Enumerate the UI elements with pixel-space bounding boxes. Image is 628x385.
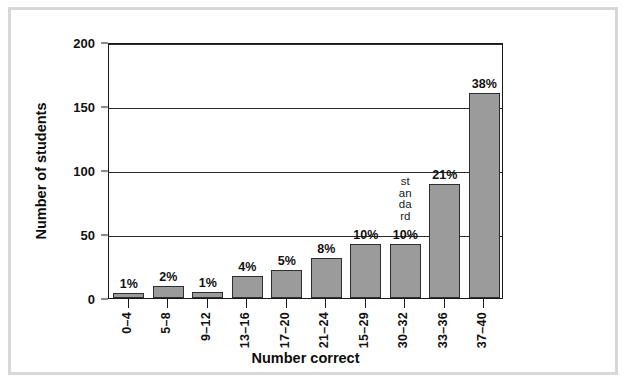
bar[interactable] (469, 93, 500, 298)
bar-slot: 1% (188, 44, 228, 298)
x-axis-tick-label: 0–4 (120, 312, 136, 334)
x-axis-tick-label: 5–8 (159, 312, 175, 334)
x-axis-tick-label: 21–24 (317, 312, 333, 348)
bar-value-label: 10% (386, 228, 426, 242)
y-axis-tick-label: 100 (73, 164, 95, 179)
bar-slot: 10% (346, 44, 386, 298)
y-axis-title: Number of students (31, 43, 51, 299)
x-axis-tick-mark (207, 299, 208, 308)
x-axis-tick-mark (483, 299, 484, 308)
y-axis-tick-mark (101, 299, 108, 300)
x-axis-tick-mark (404, 299, 405, 308)
bar-slot: 4% (228, 44, 268, 298)
bar[interactable] (390, 244, 421, 298)
bar[interactable] (271, 270, 302, 298)
bar-chart: Number of students 050100150200 1%2%1%4%… (11, 10, 621, 378)
y-axis-tick-label: 0 (88, 292, 95, 307)
bar-slot: 21% (425, 44, 465, 298)
bar[interactable] (113, 293, 144, 298)
y-axis-tick-mark (101, 43, 108, 44)
y-axis-tick-mark (101, 235, 108, 236)
x-axis-title: Number correct (108, 350, 503, 366)
y-axis-tick-label: 200 (73, 36, 95, 51)
y-axis-tick-mark (101, 171, 108, 172)
x-axis-tick-label: 15–29 (357, 312, 373, 348)
bar-value-label: 2% (149, 270, 189, 284)
figure-frame: Number of students 050100150200 1%2%1%4%… (8, 7, 618, 375)
bar-slot: 8% (307, 44, 347, 298)
bar-value-label: 5% (267, 254, 307, 268)
standard-annotation: standard (398, 176, 412, 222)
bar[interactable] (153, 286, 184, 298)
plot-area: 1%2%1%4%5%8%10%10%21%38% standard (108, 43, 503, 299)
bar[interactable] (311, 258, 342, 298)
x-axis-tick-mark (167, 299, 168, 308)
bar[interactable] (192, 292, 223, 298)
bar-value-label: 10% (346, 228, 386, 242)
x-axis-tick-label: 37–40 (475, 312, 491, 348)
x-axis-tick-label: 30–32 (396, 312, 412, 348)
bar[interactable] (429, 184, 460, 298)
bar-slot: 2% (149, 44, 189, 298)
bar-value-label: 38% (465, 77, 505, 91)
x-axis-tick-mark (444, 299, 445, 308)
bar-slot: 1% (109, 44, 149, 298)
bar-value-label: 1% (109, 277, 149, 291)
bar-value-label: 8% (307, 242, 347, 256)
bar-slot: 10% (386, 44, 426, 298)
x-axis-tick-mark (325, 299, 326, 308)
bar-value-label: 1% (188, 276, 228, 290)
x-axis-tick-label: 13–16 (238, 312, 254, 348)
bar-slot: 5% (267, 44, 307, 298)
x-axis-tick-label: 9–12 (199, 312, 215, 341)
bar-slot: 38% (465, 44, 505, 298)
y-axis-tick-label: 150 (73, 100, 95, 115)
y-axis-tick-label: 50 (81, 228, 95, 243)
bar-value-label: 21% (425, 168, 465, 182)
x-axis-tick-mark (128, 299, 129, 308)
x-axis-tick-mark (286, 299, 287, 308)
bar[interactable] (232, 276, 263, 298)
y-axis-tick-mark (101, 107, 108, 108)
x-axis-tick-label: 17–20 (278, 312, 294, 348)
x-axis-tick-mark (365, 299, 366, 308)
bar-value-label: 4% (228, 260, 268, 274)
x-axis-tick-mark (246, 299, 247, 308)
bar[interactable] (350, 244, 381, 298)
x-axis-tick-label: 33–36 (436, 312, 452, 348)
